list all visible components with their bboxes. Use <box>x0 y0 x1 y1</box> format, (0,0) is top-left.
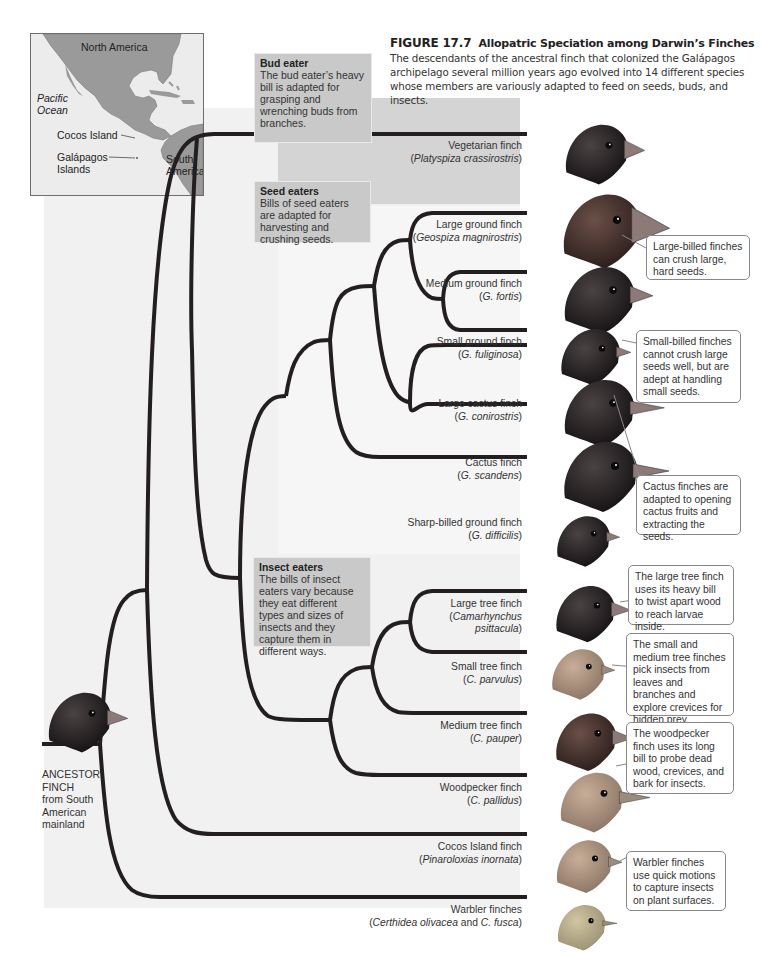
bud-eater-text: The bud eater’s heavy bill is adapted fo… <box>260 69 366 129</box>
species-common-name: Sharp-billed ground finch <box>342 517 522 530</box>
large-tree-finch-head-icon <box>556 586 630 642</box>
callout-small-medium-tree: The small and medium tree finches pick i… <box>626 633 734 716</box>
small-tree-finch-head-icon <box>552 649 614 700</box>
species-common-name: Warbler finches <box>302 904 522 917</box>
species-common-name: Large tree finch <box>342 598 522 611</box>
medium-tree-finch-head-icon <box>556 714 632 772</box>
species-common-name: Small tree finch <box>342 661 522 674</box>
species-label: Woodpecker finch (C. pallidus) <box>342 782 522 807</box>
species-common-name: Cactus finch <box>342 457 522 470</box>
species-common-name: Cocos Island finch <box>342 841 522 854</box>
species-scientific-name: (G. difficilis) <box>342 530 522 543</box>
ancestor-line: FINCH <box>42 781 112 794</box>
species-label: Warbler finches (Certhidea olivacea and … <box>302 904 522 929</box>
species-scientific-name: (C. pallidus) <box>342 795 522 808</box>
species-label: Vegetarian finch (Platyspiza crassirostr… <box>342 140 522 165</box>
species-scientific-name: (G. fortis) <box>342 291 522 304</box>
ancestor-label: ANCESTOR FINCH from South American mainl… <box>42 768 112 831</box>
ancestor-line: mainland <box>42 818 112 831</box>
ancestor-line: ANCESTOR <box>42 768 112 781</box>
species-common-name: Vegetarian finch <box>342 140 522 153</box>
species-scientific-name: (C. pauper) <box>342 733 522 746</box>
callout-large-tree: The large tree finch uses its heavy bill… <box>628 565 734 625</box>
species-scientific-name: (G. scandens) <box>342 470 522 483</box>
species-label: Medium tree finch (C. pauper) <box>342 720 522 745</box>
seed-eaters-title: Seed eaters <box>260 185 365 197</box>
callout-woodpecker: The woodpecker finch uses its long bill … <box>626 722 734 794</box>
cocos-island-finch-head-icon <box>557 840 622 893</box>
warbler-finch-head-icon <box>558 905 617 951</box>
species-label: Small ground finch (G. fuliginosa) <box>342 336 522 361</box>
bud-eater-box: Bud eater The bud eater’s heavy bill is … <box>254 53 372 143</box>
callout-cactus: Cactus finches are adapted to opening ca… <box>636 475 741 535</box>
medium-ground-finch-head-icon <box>565 267 653 334</box>
species-label: Large tree finch (Camarhynchus psittacul… <box>342 598 522 636</box>
sharp-billed-finch-head-icon <box>557 516 619 567</box>
species-scientific-name: (Certhidea olivacea and C. fusca) <box>302 917 522 930</box>
small-ground-finch-head-icon <box>561 329 630 385</box>
species-label: Sharp-billed ground finch (G. difficilis… <box>342 517 522 542</box>
ancestor-line: from South <box>42 793 112 806</box>
vegetarian-finch-head-icon <box>566 125 645 185</box>
species-common-name: Medium ground finch <box>342 278 522 291</box>
species-label: Medium ground finch (G. fortis) <box>342 278 522 303</box>
species-scientific-name: (Pinaroloxias inornata) <box>342 854 522 867</box>
ancestor-line: American <box>42 806 112 819</box>
species-scientific-name: (Platyspiza crassirostris) <box>342 153 522 166</box>
species-scientific-name: (G. fuliginosa) <box>342 349 522 362</box>
species-common-name: Woodpecker finch <box>342 782 522 795</box>
species-common-name: Large cactus finch <box>342 398 522 411</box>
species-scientific-name: (Camarhynchus <box>342 611 522 624</box>
species-common-name: Large ground finch <box>342 219 522 232</box>
insect-eaters-title: Insect eaters <box>259 561 365 573</box>
species-label: Cocos Island finch (Pinaroloxias inornat… <box>342 841 522 866</box>
species-scientific-name: (G. conirostris) <box>342 411 522 424</box>
species-label: Small tree finch (C. parvulus) <box>342 661 522 686</box>
callout-warbler: Warbler finches use quick motions to cap… <box>626 851 726 911</box>
ancestor-finch-head-icon <box>49 693 128 753</box>
species-scientific-name-cont: psittacula) <box>342 623 522 636</box>
species-common-name: Medium tree finch <box>342 720 522 733</box>
callout-small-billed: Small-billed finches cannot crush large … <box>636 330 741 403</box>
species-common-name: Small ground finch <box>342 336 522 349</box>
species-label: Cactus finch (G. scandens) <box>342 457 522 482</box>
species-label: Large cactus finch (G. conirostris) <box>342 398 522 423</box>
species-scientific-name: (Geospiza magnirostris) <box>342 232 522 245</box>
species-label: Large ground finch (Geospiza magnirostri… <box>342 219 522 244</box>
bud-eater-title: Bud eater <box>260 57 366 69</box>
species-scientific-name: (C. parvulus) <box>342 674 522 687</box>
callout-large-billed: Large-billed finches can crush large, ha… <box>646 235 750 280</box>
